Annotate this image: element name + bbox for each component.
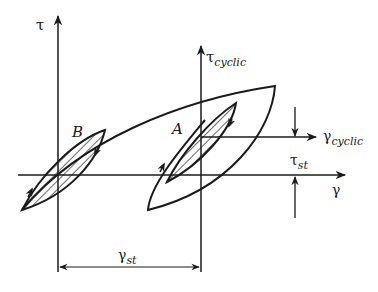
loop-a-arrow-up bbox=[160, 164, 164, 172]
loop-b bbox=[22, 130, 105, 210]
gamma-st-label: γst bbox=[118, 247, 137, 267]
gamma-cyclic-label: γcyclic bbox=[323, 128, 363, 148]
tau-cyclic-label: τcyclic bbox=[206, 48, 246, 69]
hysteresis-diagram: τ τcyclic γcyclic τst γ γst B A bbox=[0, 0, 378, 292]
point-b-label: B bbox=[71, 123, 83, 141]
tau-st-label: τst bbox=[290, 152, 308, 172]
tau-axis-label: τ bbox=[36, 16, 44, 34]
gamma-axis-label: γ bbox=[332, 182, 340, 198]
point-a-label: A bbox=[170, 120, 183, 138]
